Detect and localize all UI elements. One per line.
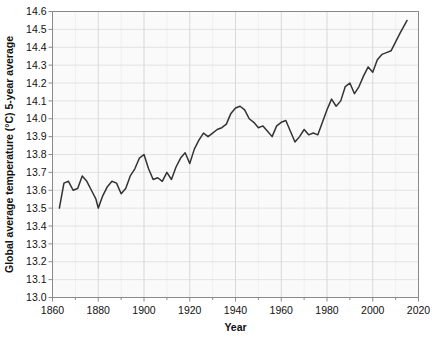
- x-tick-label: 2020: [407, 304, 431, 316]
- x-axis: 186018801900192019401960198020002020: [41, 298, 431, 316]
- temperature-line-chart: 13.013.113.213.313.413.513.613.713.813.9…: [0, 0, 432, 347]
- x-tick-label: 1940: [224, 304, 248, 316]
- y-tick-label: 13.0: [26, 291, 47, 303]
- y-tick-label: 14.0: [26, 112, 47, 124]
- y-tick-label: 13.5: [26, 202, 47, 214]
- x-tick-label: 2000: [361, 304, 385, 316]
- chart-canvas: 13.013.113.213.313.413.513.613.713.813.9…: [0, 0, 432, 347]
- x-tick-label: 1880: [87, 304, 111, 316]
- y-axis: 13.013.113.213.313.413.513.613.713.813.9…: [26, 5, 52, 303]
- y-tick-label: 14.6: [26, 5, 47, 17]
- y-tick-label: 14.4: [26, 41, 47, 53]
- x-tick-label: 1860: [41, 304, 65, 316]
- y-tick-label: 14.2: [26, 77, 47, 89]
- y-tick-label: 14.1: [26, 95, 47, 107]
- y-tick-label: 13.4: [26, 220, 47, 232]
- x-tick-label: 1920: [178, 304, 202, 316]
- y-tick-label: 13.8: [26, 148, 47, 160]
- y-tick-label: 13.9: [26, 130, 47, 142]
- y-tick-label: 13.1: [26, 273, 47, 285]
- y-tick-label: 14.3: [26, 59, 47, 71]
- x-tick-label: 1980: [315, 304, 339, 316]
- x-tick-label: 1900: [132, 304, 156, 316]
- x-axis-title: Year: [224, 321, 246, 333]
- y-tick-label: 13.2: [26, 255, 47, 267]
- y-tick-label: 13.6: [26, 184, 47, 196]
- y-tick-label: 14.5: [26, 23, 47, 35]
- x-tick-label: 1960: [270, 304, 294, 316]
- y-tick-label: 13.7: [26, 166, 47, 178]
- y-tick-label: 13.3: [26, 238, 47, 250]
- y-axis-title: Global average temperature (°C) 5-year a…: [3, 36, 15, 273]
